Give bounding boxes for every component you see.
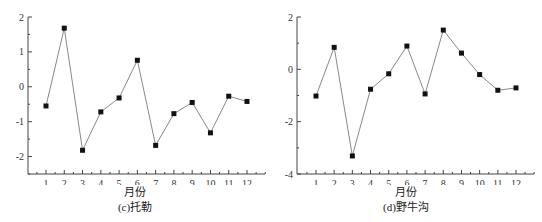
data-point-marker <box>314 94 319 99</box>
data-point-marker <box>245 99 250 104</box>
data-point-marker <box>98 109 103 114</box>
data-point-marker <box>514 85 519 90</box>
y-tick-label: 1 <box>19 46 24 57</box>
x-axis-label: 月份 <box>270 183 542 199</box>
chart-caption: (c)托勒 <box>0 198 270 214</box>
data-point-marker <box>80 148 85 153</box>
data-point-marker <box>404 44 409 49</box>
data-point-marker <box>135 58 140 63</box>
y-tick-label: 2 <box>288 12 293 23</box>
data-point-marker <box>350 153 355 158</box>
data-point-marker <box>368 87 373 92</box>
y-tick-label: -1 <box>16 116 24 127</box>
y-tick-label: -2 <box>285 116 293 127</box>
data-point-marker <box>226 94 231 99</box>
line-chart-tuole: 210-1-2123456789101112 <box>0 0 270 185</box>
data-line <box>46 28 247 150</box>
data-point-marker <box>441 28 446 33</box>
y-tick-label: 0 <box>288 64 293 75</box>
y-tick-label: -4 <box>285 169 293 180</box>
y-tick-label: -2 <box>16 151 24 162</box>
data-point-marker <box>117 95 122 100</box>
y-tick-label: 0 <box>19 81 24 92</box>
data-line <box>316 30 516 156</box>
data-point-marker <box>153 143 158 148</box>
data-point-marker <box>44 103 49 108</box>
chart-caption: (d)野牛沟 <box>270 198 542 214</box>
chart-panel-yeniugou: 20-2-4123456789101112 月份 (d)野牛沟 <box>270 0 542 222</box>
data-point-marker <box>208 130 213 135</box>
data-point-marker <box>386 71 391 76</box>
line-chart-yeniugou: 20-2-4123456789101112 <box>270 0 542 185</box>
data-point-marker <box>495 88 500 93</box>
data-point-marker <box>190 100 195 105</box>
data-point-marker <box>477 72 482 77</box>
data-point-marker <box>62 26 67 31</box>
x-axis-label: 月份 <box>0 183 270 199</box>
data-point-marker <box>423 91 428 96</box>
chart-panel-tuole: 210-1-2123456789101112 月份 (c)托勒 <box>0 0 270 222</box>
data-point-marker <box>332 45 337 50</box>
y-tick-label: 2 <box>19 12 24 23</box>
data-point-marker <box>459 51 464 56</box>
data-point-marker <box>171 111 176 116</box>
